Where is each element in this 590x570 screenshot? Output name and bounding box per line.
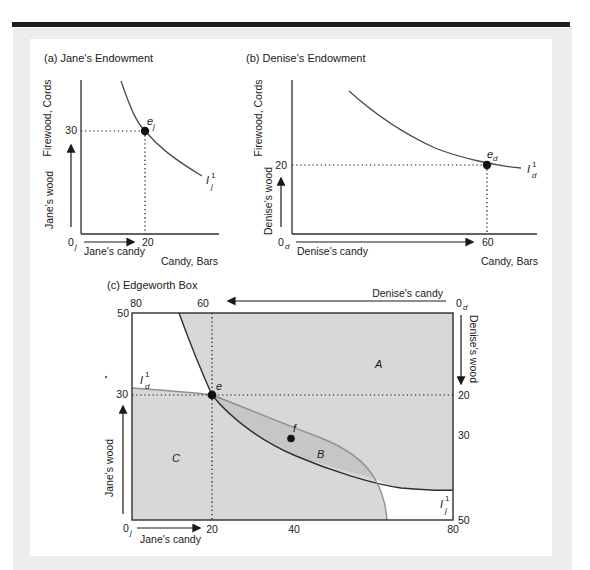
box-top-tick-60: 60: [197, 297, 209, 309]
denise-curve-label-b-sub: d: [532, 171, 537, 180]
denise-candy-arrow-label: Denise's candy: [372, 287, 444, 299]
box-top-tick-80: 80: [130, 297, 142, 309]
jane-curve-label-box-sub: j: [444, 506, 447, 515]
panel-b-x-tick-60: 60: [482, 236, 494, 248]
region-c-label: C: [172, 452, 180, 464]
box-origin-jane: 0: [123, 522, 129, 534]
panel-a-wood-arrow-label: Jane's wood: [43, 171, 55, 229]
jane-curve-label-a: I: [206, 174, 209, 186]
panel-a-origin: 0: [68, 236, 74, 248]
panel-a-title: (a) Jane's Endowment: [44, 52, 153, 64]
denise-curve-label-b: I: [527, 163, 530, 175]
panel-a-x-axis-label: Candy, Bars: [161, 255, 218, 267]
figure-svg: (a) Jane's Endowment Firewood, Cords Jan…: [0, 0, 590, 570]
box-origin-denise-sub: d: [463, 303, 468, 312]
point-e-label: e: [216, 380, 222, 392]
panel-a-origin-sub: j: [74, 242, 77, 251]
box-right-tick-30: 30: [458, 429, 470, 441]
panel-b-y-axis-label: Firewood, Cords: [252, 79, 264, 156]
denise-curve-label-box: I: [140, 374, 143, 386]
box-left-tick-30: 30: [116, 388, 128, 400]
stray-mark: [105, 376, 107, 378]
jane-candy-arrow-label: Jane's candy: [140, 533, 202, 545]
denise-curve-label-box-sub: d: [145, 382, 150, 391]
region-b-label: B: [317, 448, 324, 460]
jane-curve-label-a-sup: 1: [211, 171, 216, 180]
allocation-point-f: [287, 435, 295, 443]
box-origin-jane-sub: j: [129, 528, 132, 537]
panel-a: (a) Jane's Endowment Firewood, Cords Jan…: [41, 52, 219, 267]
panel-c: (c) Edgeworth Box e f A: [103, 279, 480, 545]
denise-curve-label-box-sup: 1: [145, 370, 150, 379]
panel-a-candy-arrow-label: Jane's candy: [84, 245, 146, 257]
figure-page: (a) Jane's Endowment Firewood, Cords Jan…: [0, 0, 590, 570]
box-left-tick-50: 50: [117, 307, 129, 319]
panel-b-wood-arrow-label: Denise's wood: [262, 167, 274, 235]
panel-b-x-axis-label: Candy, Bars: [481, 255, 538, 267]
panel-b-candy-arrow-label: Denise's candy: [297, 245, 369, 257]
panel-a-y-axis-label: Firewood, Cords: [41, 79, 53, 156]
endowment-point-ej: [141, 127, 149, 135]
jane-wood-arrow-label: Jane's wood: [103, 439, 115, 497]
box-right-tick-50: 50: [458, 514, 470, 526]
jane-curve-label-box: I: [440, 498, 443, 510]
denise-curve-label-b-sup: 1: [532, 160, 537, 169]
panel-b-title: (b) Denise's Endowment: [246, 52, 366, 64]
panel-b: (b) Denise's Endowment Firewood, Cords D…: [246, 52, 538, 267]
denise-wood-arrow-label: Denise's wood: [468, 315, 480, 383]
point-ej-label-sub: j: [152, 122, 155, 131]
panel-b-y-tick-20: 20: [275, 159, 287, 171]
box-bottom-tick-40: 40: [288, 523, 300, 535]
panel-c-title: (c) Edgeworth Box: [107, 279, 198, 291]
region-a-label: A: [374, 358, 382, 370]
panel-b-origin: 0: [278, 236, 284, 248]
box-right-tick-20: 20: [458, 389, 470, 401]
box-origin-denise: 0: [456, 297, 462, 309]
box-bottom-tick-80: 80: [447, 523, 459, 535]
jane-curve-label-box-sup: 1: [445, 494, 450, 503]
box-bottom-tick-20: 20: [206, 523, 218, 535]
jane-indifference-curve-a: [121, 81, 202, 176]
panel-a-y-tick-30: 30: [65, 124, 77, 136]
point-ed-label-sub: d: [493, 154, 498, 163]
endowment-point-ed: [483, 161, 491, 169]
jane-curve-label-a-sub: j: [210, 182, 213, 191]
panel-b-origin-sub: d: [285, 242, 290, 251]
